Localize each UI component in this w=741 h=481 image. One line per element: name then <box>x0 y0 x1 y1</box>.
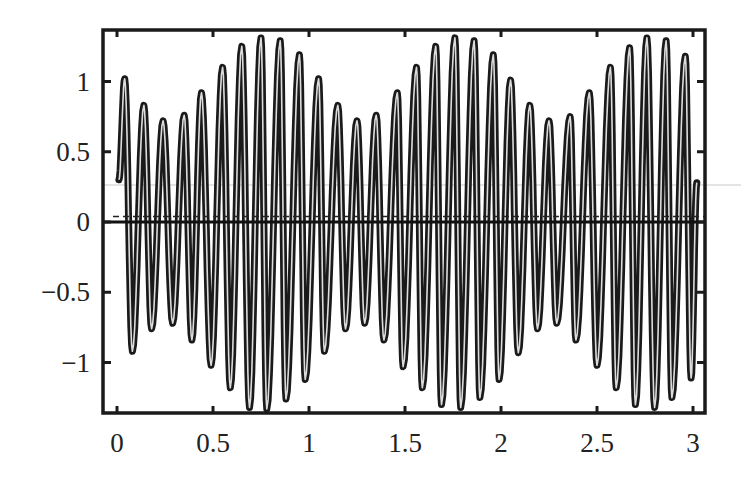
x-tick-label: 1.5 <box>388 428 422 458</box>
y-tick-label: 1 <box>77 67 91 97</box>
x-axis-tick-labels: 00.511.522.53 <box>110 428 700 458</box>
x-tick-label: 2 <box>494 428 508 458</box>
x-tick-label: 1 <box>302 428 316 458</box>
x-tick-label: 3 <box>686 428 700 458</box>
x-tick-label: 0.5 <box>196 428 230 458</box>
x-tick-label: 2.5 <box>580 428 614 458</box>
chart: 00.511.522.53 10.50−0.5−1 <box>0 0 741 481</box>
x-tick-label: 0 <box>110 428 124 458</box>
y-tick-label: −1 <box>61 348 90 378</box>
y-tick-label: 0 <box>77 207 91 237</box>
y-tick-label: 0.5 <box>56 137 90 167</box>
y-tick-label: −0.5 <box>41 277 90 307</box>
